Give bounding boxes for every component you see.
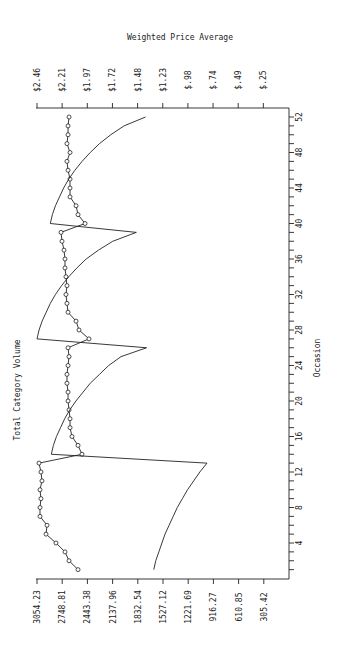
volume-marker [59, 230, 63, 234]
volume-marker [63, 257, 67, 261]
volume-axis-label: Total Category Volume [13, 339, 22, 440]
volume-marker [68, 426, 72, 430]
volume-marker [38, 506, 42, 510]
occasion-tick-label: 8 [295, 505, 304, 510]
occasion-tick-label: 24 [295, 361, 304, 371]
volume-marker [74, 204, 78, 208]
occasion-tick-label: 48 [295, 148, 304, 158]
volume-marker [65, 284, 69, 288]
price-axis: $2.46$2.21$1.97$1.72$1.48$1.23$.98$.74$.… [33, 68, 268, 108]
volume-tick-label: 3054.23 [33, 590, 42, 624]
volume-marker [39, 497, 43, 501]
chart: $2.46$2.21$1.97$1.72$1.48$1.23$.98$.74$.… [0, 0, 338, 658]
volume-marker [66, 133, 70, 137]
volume-marker [54, 541, 58, 545]
volume-marker [77, 328, 81, 332]
volume-tick-label: 2748.81 [58, 590, 67, 624]
occasion-tick-label: 40 [295, 219, 304, 229]
volume-marker [37, 461, 41, 465]
volume-marker [68, 417, 72, 421]
volume-marker [66, 124, 70, 128]
price-tick-label: $2.21 [58, 68, 67, 92]
occasion-tick-label: 32 [295, 290, 304, 300]
price-tick-label: $.49 [234, 70, 243, 89]
occasion-tick-label: 12 [295, 467, 304, 477]
volume-marker [65, 381, 69, 385]
volume-marker [65, 159, 69, 163]
volume-marker [65, 372, 69, 376]
volume-marker [87, 337, 91, 341]
volume-marker [66, 364, 70, 368]
volume-marker [39, 470, 43, 474]
price-tick-label: $2.46 [33, 68, 42, 92]
volume-marker [67, 559, 71, 563]
volume-marker [63, 550, 67, 554]
volume-marker [74, 319, 78, 323]
volume-marker [70, 435, 74, 439]
volume-marker [62, 248, 66, 252]
volume-tick-label: 1221.69 [184, 590, 193, 624]
occasion-axis-label: Occasion [313, 339, 322, 378]
occasion-tick-label: 36 [295, 254, 304, 264]
series-layer [37, 115, 207, 572]
volume-tick-label: 916.27 [209, 592, 218, 621]
occasion-tick-label: 4 [295, 540, 304, 545]
volume-marker [40, 479, 44, 483]
volume-marker [66, 390, 70, 394]
volume-marker [66, 168, 70, 172]
price-tick-label: $.98 [184, 70, 193, 89]
volume-marker [44, 532, 48, 536]
price-tick-label: $1.72 [108, 68, 117, 92]
volume-marker [66, 346, 70, 350]
volume-marker [66, 399, 70, 403]
chart-title: Weighted Price Average [127, 33, 233, 42]
volume-tick-label: 1832.54 [134, 590, 143, 624]
price-tick-label: $.25 [259, 70, 268, 89]
volume-marker [64, 293, 68, 297]
occasion-axis: 481216202428323640444852 [289, 112, 304, 570]
occasion-tick-label: 20 [295, 396, 304, 406]
volume-marker [60, 239, 64, 243]
volume-marker [66, 310, 70, 314]
volume-marker [45, 523, 49, 527]
volume-marker [67, 115, 71, 119]
volume-axis: 3054.232748.812443.382137.961832.541527.… [33, 579, 269, 624]
plot-frame [36, 108, 289, 579]
volume-marker [68, 186, 72, 190]
volume-marker [83, 222, 87, 226]
volume-tick-label: 1527.12 [159, 590, 168, 624]
price-tick-label: $1.23 [159, 68, 168, 92]
occasion-tick-label: 28 [295, 325, 304, 335]
occasion-tick-label: 16 [295, 432, 304, 442]
volume-tick-label: 610.85 [235, 592, 244, 621]
volume-marker [76, 568, 80, 572]
volume-marker [38, 514, 42, 518]
volume-tick-label: 2443.38 [83, 590, 92, 624]
volume-line [39, 117, 89, 570]
price-tick-label: $.74 [209, 70, 218, 89]
volume-marker [65, 142, 69, 146]
volume-marker [68, 151, 72, 155]
price-tick-label: $1.48 [134, 68, 143, 92]
occasion-tick-label: 44 [295, 183, 304, 193]
volume-tick-label: 305.42 [260, 592, 269, 621]
volume-marker [67, 355, 71, 359]
price-line [37, 117, 207, 570]
price-tick-label: $1.97 [83, 68, 92, 92]
volume-marker [65, 301, 69, 305]
volume-marker [63, 266, 67, 270]
volume-marker [68, 195, 72, 199]
volume-marker [76, 213, 80, 217]
volume-marker [76, 443, 80, 447]
volume-tick-label: 2137.96 [109, 590, 118, 624]
occasion-tick-label: 52 [295, 112, 304, 122]
volume-marker [38, 488, 42, 492]
